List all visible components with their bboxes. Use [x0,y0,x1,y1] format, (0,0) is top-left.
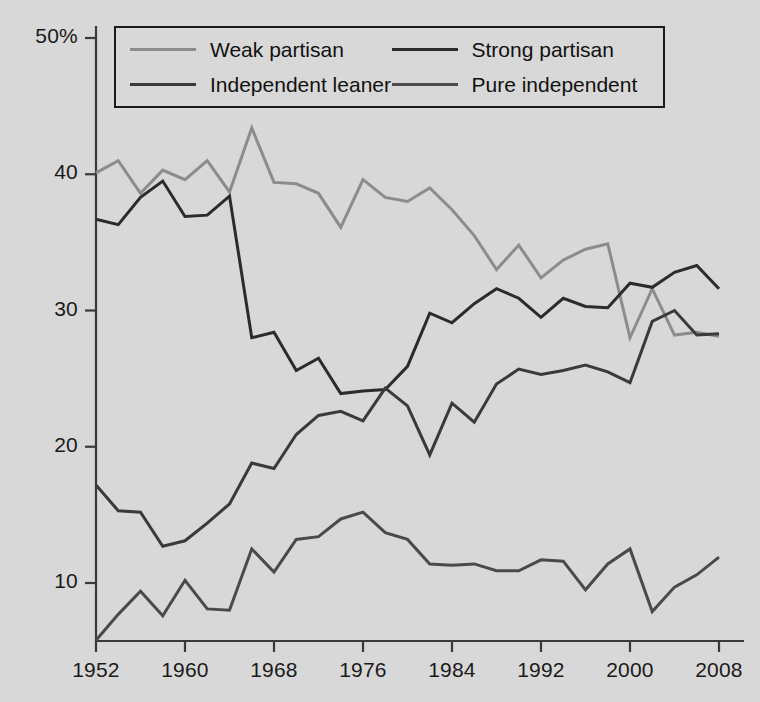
data-series-group [96,128,719,640]
legend-item-weak-partisan: Weak partisan [130,39,392,60]
legend-label-weak-partisan: Weak partisan [210,39,344,60]
x-tick-label: 1976 [323,658,403,682]
legend-label-strong-partisan: Strong partisan [472,39,614,60]
y-tick-label: 50% [0,24,78,48]
x-tick-label: 1960 [145,658,225,682]
legend: Weak partisan Strong partisan Independen… [114,26,665,108]
x-tick-label: 1952 [56,658,136,682]
series-line-strong-partisan [96,181,719,394]
x-tick-label: 1984 [412,658,492,682]
legend-swatch-independent-leaner [130,83,196,86]
y-tick-label: 40 [0,160,78,184]
y-tick-label: 30 [0,297,78,321]
legend-swatch-weak-partisan [130,48,196,51]
series-line-weak-partisan [96,128,719,338]
legend-swatch-strong-partisan [392,48,458,51]
y-tick-label: 20 [0,433,78,457]
series-line-pure-independent [96,512,719,640]
series-line-independent-leaner [96,311,719,547]
y-tick-label: 10 [0,569,78,593]
x-tick-label: 1992 [501,658,581,682]
x-tick-label: 1968 [234,658,314,682]
x-tick-label: 2008 [679,658,759,682]
legend-label-pure-independent: Pure independent [472,74,638,95]
legend-item-independent-leaner: Independent leaner [130,74,392,95]
legend-item-pure-independent: Pure independent [392,74,654,95]
x-tick-label: 2000 [590,658,670,682]
line-chart: 50%40302010 1952196019681976198419922000… [0,0,760,702]
legend-item-strong-partisan: Strong partisan [392,39,654,60]
legend-swatch-pure-independent [392,83,458,86]
legend-label-independent-leaner: Independent leaner [210,74,391,95]
